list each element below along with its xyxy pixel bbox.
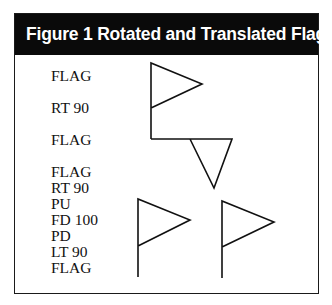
upright-flag-icon: [138, 199, 190, 277]
translated-flag-icon: [222, 201, 274, 278]
upright-flag-icon: [151, 63, 202, 139]
flag-drawings: [0, 0, 332, 305]
rotated-flag-icon: [151, 139, 232, 188]
